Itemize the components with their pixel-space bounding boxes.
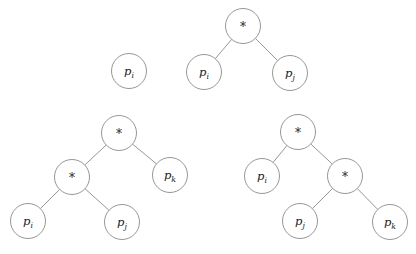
tree-edge [215, 39, 231, 58]
operator-node: * [226, 9, 261, 44]
leaf-subscript: k [171, 175, 176, 184]
operator-label: * [295, 126, 301, 140]
operator-label: * [116, 127, 122, 141]
operator-label: * [69, 171, 75, 185]
leaf-subscript: k [391, 222, 396, 231]
leaf-node: pi [245, 159, 280, 194]
operator-label: * [240, 20, 246, 34]
operator-label: * [342, 170, 348, 184]
leaf-node: pi [112, 54, 147, 89]
expression-tree-figure: pi*pipj**pkpipj*pi*pjpk [0, 0, 416, 254]
leaf-node: pj [273, 56, 308, 91]
leaf-node: pk [153, 158, 188, 193]
tree-edge [273, 146, 287, 163]
leaf-node: pi [11, 204, 46, 239]
tree-edge [133, 144, 157, 164]
tree-edge [312, 188, 332, 208]
tree-edge [311, 144, 332, 164]
operator-node: * [328, 159, 363, 194]
operator-node: * [102, 116, 137, 151]
operator-node: * [55, 160, 90, 195]
leaf-node: pj [105, 205, 140, 240]
tree-edge [40, 189, 59, 208]
nodes-layer: pi*pipj**pkpipj*pi*pjpk [11, 9, 408, 240]
tree-edge [85, 145, 106, 165]
leaf-node: pk [373, 205, 408, 240]
operator-node: * [281, 115, 316, 150]
leaf-node: pj [283, 204, 318, 239]
tree-edge [85, 189, 109, 211]
tree-edge [357, 189, 378, 210]
tree-canvas: pi*pipj**pkpipj*pi*pjpk [0, 0, 416, 254]
leaf-node: pi [187, 55, 222, 90]
tree-edge [255, 38, 277, 60]
